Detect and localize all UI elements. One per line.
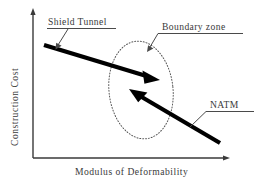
cost-vs-modulus-diagram: Construction Cost Modulus of Deformabili…	[0, 0, 257, 182]
natm-label: NATM	[210, 99, 239, 110]
boundary-zone-leader	[150, 34, 158, 48]
shield-tunnel-trend-arrow	[44, 45, 160, 84]
natm-leader	[190, 112, 206, 128]
y-axis-label: Construction Cost	[9, 68, 20, 146]
boundary-zone-ellipse	[104, 38, 178, 142]
x-axis-label: Modulus of Deformability	[75, 166, 188, 177]
figure-container: Construction Cost Modulus of Deformabili…	[0, 0, 257, 182]
natm-annotation: NATM	[190, 99, 254, 127]
x-axis-arrowhead	[223, 155, 230, 160]
shield-tunnel-leader	[58, 29, 68, 45]
natm-trend-arrow	[129, 89, 220, 143]
boundary-zone-label: Boundary zone	[162, 21, 226, 32]
boundary-zone-annotation: Boundary zone	[147, 21, 243, 52]
shield-tunnel-annotation: Shield Tunnel	[47, 16, 116, 50]
y-axis-arrowhead	[30, 8, 35, 15]
shield-tunnel-label: Shield Tunnel	[48, 16, 107, 27]
